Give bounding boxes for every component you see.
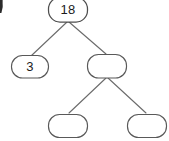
- tree-node-grandchild-left[interactable]: [49, 115, 88, 138]
- node-shape-right-child: [88, 55, 127, 79]
- node-label-left-child: 3: [26, 59, 33, 74]
- tree-diagram-figure: 18 3: [0, 0, 169, 141]
- page-edge-artifact: [0, 0, 3, 13]
- tree-diagram-canvas: 18 3: [0, 0, 169, 141]
- node-label-root: 18: [61, 2, 76, 17]
- node-shape-grandchild-right: [128, 115, 167, 138]
- tree-node-left-child[interactable]: 3: [12, 56, 49, 79]
- tree-node-right-child[interactable]: [88, 55, 127, 79]
- edge-right-child-to-grandchild-left: [69, 78, 106, 113]
- edge-root-to-right-child: [69, 22, 106, 54]
- edge-right-child-to-grandchild-right: [108, 78, 146, 113]
- tree-node-grandchild-right[interactable]: [128, 115, 167, 138]
- node-shape-grandchild-left: [49, 115, 88, 138]
- tree-node-root[interactable]: 18: [49, 0, 88, 22]
- edge-root-to-left-child: [31, 22, 67, 56]
